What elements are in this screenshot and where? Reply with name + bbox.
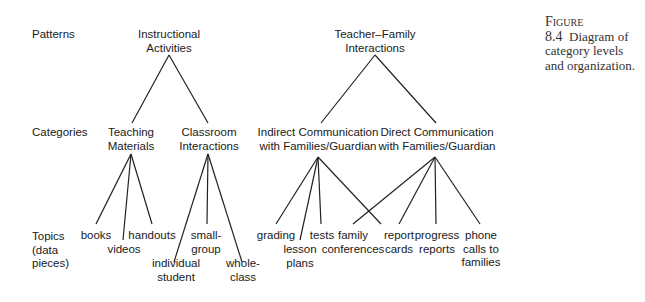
topic-progress-reports: progressreports (415, 229, 460, 256)
topic-small-group: small-group (191, 229, 222, 256)
topic-individual-student: individualstudent (152, 257, 200, 284)
category-teaching-materials: Teaching Materials (108, 126, 155, 153)
category-classroom-interactions: Classroom Interactions (179, 126, 238, 153)
pattern-teacher-family-interactions: Teacher–Family Interactions (334, 28, 415, 55)
category-indirect-communication: Indirect Communication with Families/Gua… (258, 126, 379, 153)
topic-grading: grading (257, 229, 295, 243)
topic-videos: videos (107, 243, 140, 257)
level-label-patterns: Patterns (32, 28, 75, 42)
topic-lesson-plans: lessonplans (283, 243, 316, 270)
topic-family-conferences: familyconferences (322, 229, 385, 256)
topic-report-cards: reportcards (384, 229, 414, 256)
pattern-instructional-activities: Instructional Activities (138, 28, 200, 55)
topic-whole-class: whole-class (226, 257, 260, 284)
topic-phone-calls: phonecalls tofamilies (462, 229, 501, 270)
category-direct-communication: Direct Communication with Families/Guard… (379, 126, 496, 153)
topic-handouts: handouts (128, 229, 175, 243)
figure-caption: Figure 8.4 Diagram of category levels an… (545, 15, 645, 73)
topic-books: books (81, 229, 112, 243)
level-label-topics: Topics (data pieces) (32, 230, 69, 271)
level-label-categories: Categories (32, 126, 88, 140)
